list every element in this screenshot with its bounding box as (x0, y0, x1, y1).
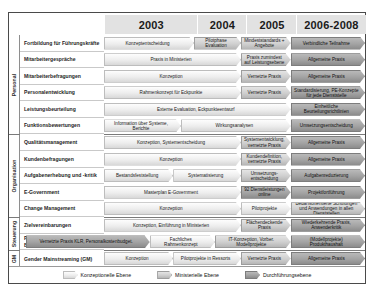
timeline-bar[interactable]: Allgemeine Praxis (291, 70, 365, 83)
timeline-bar-label: Konzeption (160, 206, 183, 211)
timeline-bar[interactable]: Umsetzungs-entscheidung (241, 169, 291, 182)
timeline-bar-label: Standardisierung, PE-Konzepte für jede D… (294, 88, 359, 98)
timeline-bar[interactable]: Allgemeine Praxis (291, 53, 365, 66)
timeline-bar[interactable]: Pilotphase Evaluation (194, 37, 241, 50)
timeline-bar-label: Fachliches Rahmenkonzept (153, 237, 209, 247)
row-label: Mitarbeitergespräche (20, 52, 104, 69)
timeline-bar[interactable]: Kundendefinition, vernetzte Praxis (241, 153, 291, 166)
timeline-bar[interactable]: Flächendeckende Praxis (241, 219, 291, 232)
timeline-bar[interactable]: Verbindliche Teilnahme (291, 37, 365, 50)
row-label: Leistungsbeurteilung (20, 101, 104, 118)
timeline-bar[interactable]: Konzeption, Einführung in Ministerien (104, 219, 241, 232)
row-label-text: Aufgabenerhebung und -kritik (24, 172, 97, 178)
timeline-bar[interactable]: Vernetzte Praxis (241, 70, 291, 83)
row-label-text: Zielvereinbarungen (24, 222, 71, 228)
timeline-bar[interactable]: 92 Dienstleistungen online (241, 186, 291, 199)
timeline-bar[interactable]: Vernetzte Praxis (241, 252, 291, 265)
row-label: Aufgabenerhebung und -kritik (20, 168, 104, 185)
row-label: Mitarbeiterbefragungen (20, 68, 104, 85)
legend-label: Durchführungsebene (263, 272, 311, 278)
section-label-text: Organisation (11, 159, 17, 192)
timeline-bar-label: Allgemeine Praxis (308, 157, 345, 162)
column-header-2005: 2005 (246, 15, 297, 34)
timeline-bar-label: Rahmenkonzept für Eckpunkte (140, 90, 203, 95)
timeline-bar[interactable]: Standardisierung, PE-Konzepte für jede D… (291, 86, 365, 99)
timeline-bar[interactable]: Praxis in Ministerien (104, 53, 241, 66)
timeline-bar[interactable]: Bedarfsorientierte Schulungen und Anwend… (291, 202, 365, 215)
timeline-bar[interactable]: Rahmenkonzept für Eckpunkte (104, 86, 241, 99)
timeline-bar-label: Bedarfsorientierte Schulungen und Anwend… (294, 202, 359, 215)
roadmap-chart: 2003200420052006-2008PersonalOrganisatio… (8, 12, 366, 284)
legend-label: Konzeptionelle Ebene (81, 272, 131, 278)
row-label: Zielvereinbarungen (20, 217, 104, 234)
timeline-bar[interactable]: Konzeption (104, 202, 241, 215)
timeline-bar[interactable]: Allgemeine Praxis (291, 153, 365, 166)
timeline-bar-label: Konzeptentscheidung (125, 41, 169, 46)
timeline-bar[interactable]: Externe Evaluation, Eckpunkteentwurf (104, 103, 291, 116)
timeline-bar[interactable]: Konzeption (104, 70, 241, 83)
chart-legend: Konzeptionelle EbeneMinisterielle EbeneD… (9, 266, 365, 283)
timeline-bar-label: Konzeption, Einführung in Ministerien (133, 223, 209, 228)
timeline-bar[interactable]: (Modellprojekte) Produkthaushalt (291, 235, 365, 248)
row-label-text: Mitarbeitergespräche (24, 56, 76, 62)
legend-swatch-icon (157, 271, 172, 279)
timeline-bar-label: Umsetzungs-entscheidung (244, 171, 285, 181)
row-label-text: Qualitätsmanagement (24, 139, 77, 145)
timeline-bar-label: Allgemeine Praxis (308, 140, 345, 145)
section-label-gm: GM (9, 250, 20, 267)
timeline-bar-label: Allgemeine Praxis (308, 256, 345, 261)
row-label: Gender Mainstreaming (GM) (20, 250, 104, 267)
timeline-bar[interactable]: Allgemeine Praxis (291, 136, 365, 149)
timeline-bar[interactable]: Pilotprojekte (241, 202, 291, 215)
row-label: Fortbildung für Führungskräfte (20, 35, 104, 52)
timeline-bar-label: Kundendefinition, vernetzte Praxis (244, 154, 285, 164)
timeline-bar[interactable]: Konzeptentscheidung (104, 37, 194, 50)
timeline-bar-label: Konzeption, Systementscheidung (137, 140, 205, 145)
timeline-bar[interactable]: Vernetzte Praxis (241, 86, 291, 99)
timeline-bar-label: Masterplan E-Government (144, 190, 198, 195)
row-label-text: Mitarbeiterbefragungen (24, 73, 81, 79)
timeline-bar[interactable]: Konzeption, Systementscheidung (104, 136, 241, 149)
timeline-bar[interactable]: Projektfortführung (291, 186, 365, 199)
row-label: Funktionsbewertungen (20, 118, 104, 135)
timeline-bar-label: Konzeption (160, 157, 183, 162)
timeline-bar[interactable]: Masterplan E-Government (104, 186, 241, 199)
timeline-bar[interactable]: Information über Systeme, Berichte (104, 119, 181, 132)
timeline-bar[interactable]: Vernetzte Praxis KLR, Personalkostenbudg… (26, 235, 150, 248)
timeline-bar-label: Information über Systeme, Berichte (107, 121, 175, 131)
timeline-bar[interactable]: Pilotprojekte in Ressorts (173, 252, 241, 265)
timeline-bar[interactable]: Wiederkehrende Praxis, Anwenderkritik (291, 219, 365, 232)
section-label-personal: Personal (9, 35, 20, 134)
timeline-bar-label: Pilotprojekte in Ressorts (181, 256, 231, 261)
timeline-bar[interactable]: Mindeststandards + Angebote (241, 37, 291, 50)
timeline-bar[interactable]: Systementwicklung, vernetzte Praxis (241, 136, 291, 149)
timeline-bar-label: Vernetzte Praxis (248, 74, 281, 79)
timeline-bar-label: Projektfortführung (308, 190, 345, 195)
timeline-bar-label: Pilotprojekte (252, 206, 277, 211)
timeline-bar[interactable]: Einheitliche Beurteilungsrichtlinien (291, 103, 365, 116)
timeline-bar[interactable]: Bestandsfeststellung (104, 169, 173, 182)
column-header-2004: 2004 (197, 15, 248, 34)
timeline-bar-label: Flächendeckende Praxis (244, 220, 285, 230)
timeline-bar[interactable]: Allgemeine Praxis (291, 252, 365, 265)
timeline-bar[interactable]: Konzeption (104, 252, 173, 265)
timeline-bar[interactable]: Aufgabenreduzierung (291, 169, 365, 182)
timeline-bar[interactable]: IT-Konzeption, Vorber. Modellprojekte (215, 235, 291, 248)
timeline-bar[interactable]: Umsetzungsentscheidung (291, 119, 365, 132)
timeline-bar[interactable]: Fachliches Rahmenkonzept (150, 235, 215, 248)
timeline-bar[interactable]: Konzeption (104, 153, 241, 166)
timeline-bar[interactable]: Praxis zumindest auf Leistungsebene (241, 53, 291, 66)
row-label-text: Personalentwicklung (24, 89, 75, 95)
legend-label: Ministerielle Ebene (175, 272, 219, 278)
timeline-bar-label: Wirkungsanalysen (216, 123, 254, 128)
timeline-bar-label: Wiederkehrende Praxis, Anwenderkritik (294, 220, 359, 230)
timeline-bar[interactable]: Wirkungsanalysen (181, 119, 291, 132)
row-label-text: Kundenbefragungen (24, 156, 74, 162)
row-label-text: Change Management (24, 205, 75, 211)
column-header-2003: 2003 (104, 15, 198, 34)
timeline-bar[interactable]: Systematisierung (173, 169, 241, 182)
row-label: Qualitätsmanagement (20, 134, 104, 151)
section-label-text: Personal (11, 73, 17, 96)
section-label-organisation: Organisation (9, 134, 20, 217)
row-label: Personalentwicklung (20, 85, 104, 102)
